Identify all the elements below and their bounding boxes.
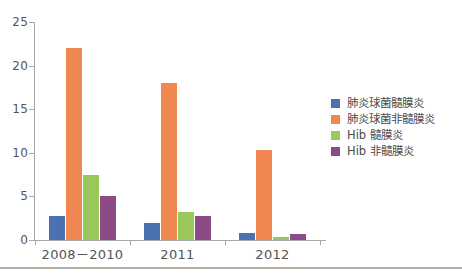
bar xyxy=(178,212,194,240)
bar xyxy=(290,234,306,240)
y-tick-mark xyxy=(29,196,34,197)
legend-item[interactable]: Hib 髓膜炎 xyxy=(331,127,456,143)
footer-divider xyxy=(0,267,462,269)
y-tick-mark xyxy=(29,109,34,110)
x-tick-mark xyxy=(130,241,131,245)
legend-swatch-icon xyxy=(331,99,340,108)
bar xyxy=(83,175,99,240)
legend-swatch-icon xyxy=(331,147,340,156)
chart-legend: 肺炎球菌髓膜炎肺炎球菌非髓膜炎Hib 髓膜炎Hib 非髓膜炎 xyxy=(331,95,456,159)
y-tick-mark xyxy=(29,153,34,154)
bar xyxy=(66,48,82,240)
x-tick-mark xyxy=(320,241,321,245)
legend-item[interactable]: 肺炎球菌髓膜炎 xyxy=(331,95,456,111)
y-tick-mark xyxy=(29,240,34,241)
legend-item[interactable]: Hib 非髓膜炎 xyxy=(331,143,456,159)
y-tick-mark xyxy=(29,66,34,67)
y-tick-label: 20 xyxy=(2,60,28,72)
y-tick-label: 10 xyxy=(2,147,28,159)
bar xyxy=(195,216,211,240)
legend-label: 肺炎球菌髓膜炎 xyxy=(347,97,424,110)
legend-label: Hib 髓膜炎 xyxy=(347,129,403,142)
footer-spacer xyxy=(0,270,462,276)
bar xyxy=(273,237,289,240)
legend-item[interactable]: 肺炎球菌非髓膜炎 xyxy=(331,111,456,127)
y-tick-label: 15 xyxy=(2,103,28,115)
x-category-label: 2012 xyxy=(213,248,333,262)
y-tick-label: 25 xyxy=(2,16,28,28)
y-tick-mark xyxy=(29,22,34,23)
bar xyxy=(161,83,177,240)
y-tick-label: 5 xyxy=(2,190,28,202)
x-axis-line xyxy=(34,240,326,241)
bar xyxy=(256,150,272,240)
bar xyxy=(239,233,255,240)
legend-swatch-icon xyxy=(331,131,340,140)
bar xyxy=(49,216,65,240)
legend-label: Hib 非髓膜炎 xyxy=(347,145,414,158)
x-tick-mark xyxy=(225,241,226,245)
legend-label: 肺炎球菌非髓膜炎 xyxy=(347,113,435,126)
plot-area xyxy=(35,22,320,240)
y-tick-label: 0 xyxy=(2,234,28,246)
x-tick-mark xyxy=(35,241,36,245)
bar xyxy=(144,223,160,240)
bar-chart: 0510152025 2008－201020112012 肺炎球菌髓膜炎肺炎球菌… xyxy=(0,0,462,276)
legend-swatch-icon xyxy=(331,115,340,124)
bar xyxy=(100,196,116,240)
